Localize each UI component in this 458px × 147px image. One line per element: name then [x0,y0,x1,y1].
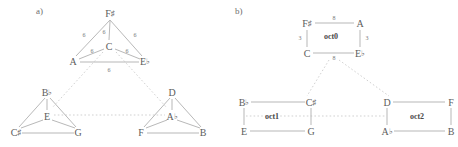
weight-a-eflat: 6 [108,67,111,73]
node-c-sharp-a: C♯ [11,127,22,138]
dashed-c-to-e [52,52,103,108]
node-d-b: D [383,97,390,108]
edge-aflat-b [177,120,200,128]
node-b-a: B [200,127,207,138]
node-f-sharp-a: F♯ [105,8,115,19]
panel-b-label: b) [235,6,243,16]
figure-root: a) F♯ A E♭ C 6 6 6 6 6 6 B♭ C♯ G E D F B… [0,0,458,147]
node-d-a: D [168,87,175,98]
node-a-flat-a: A♭ [166,111,177,122]
weight-fsharp-a-b: 8 [333,15,336,21]
node-f-a: F [138,127,144,138]
dashed-edges-b [246,60,389,116]
panel-b-edges [229,0,458,147]
weight-fsharp-a: 6 [83,32,86,38]
dashed-oct0-to-oct2 [339,60,389,96]
node-f-sharp-b: F♯ [302,18,312,29]
weight-fsharp-c-b: 3 [299,35,302,41]
edge-bflat-g [50,98,76,127]
node-g-a: G [74,127,81,138]
edge-e-g [52,120,75,128]
panel-a-edges [0,0,229,147]
node-b-flat-b: B♭ [239,97,250,108]
node-a-a: A [69,56,76,67]
node-c-sharp-b: C♯ [306,97,317,108]
weight-a-eflat-b: 3 [366,35,369,41]
weight-c-a: 6 [91,48,94,54]
weight-c-eflat: 6 [126,48,129,54]
weight-fsharp-eflat: 6 [134,32,137,38]
node-e-b: E [241,126,247,137]
weight-c-eflat-b: 8 [333,55,336,61]
panel-b: b) F♯ A C E♭ oct0 8 8 3 3 B♭ C♯ E G oct1… [229,0,458,147]
node-e-flat-b: E♭ [355,48,365,59]
node-g-b: G [307,126,314,137]
node-b-flat-a: B♭ [42,87,53,98]
node-e-a: E [44,111,50,122]
node-f-b: F [448,97,454,108]
node-e-flat-a: E♭ [140,56,150,67]
panel-a-label: a) [36,6,43,16]
set-label-oct0: oct0 [324,32,338,41]
panel-a: a) F♯ A E♭ C 6 6 6 6 6 6 B♭ C♯ G E D F B… [0,0,229,147]
dashed-oct0-to-oct1 [307,60,329,96]
node-b-b: B [448,126,455,137]
node-c-b: C [304,48,311,59]
weight-fsharp-c: 6 [103,29,106,35]
node-a-flat-b: A♭ [381,126,392,137]
node-c-a: C [106,41,113,52]
set-label-oct2: oct2 [410,112,424,121]
node-a-b: A [356,18,363,29]
edge-fsharp-c [109,21,110,40]
set-label-oct1: oct1 [265,112,279,121]
edge-d-b [175,98,201,127]
edge-bflat-csharp [19,98,45,127]
